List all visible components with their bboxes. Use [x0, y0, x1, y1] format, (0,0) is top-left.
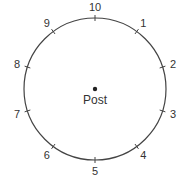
tick-mark	[135, 144, 139, 149]
position-label: 6	[44, 149, 50, 161]
post-dot	[93, 87, 97, 91]
position-label: 1	[140, 17, 146, 29]
position-label: 5	[92, 165, 98, 177]
tick-mark	[52, 29, 56, 34]
tick-mark	[52, 144, 56, 149]
position-label: 8	[14, 58, 20, 70]
position-label: 9	[44, 17, 50, 29]
position-label: 10	[89, 1, 101, 13]
tick-mark	[135, 29, 139, 34]
position-label: 4	[140, 149, 146, 161]
position-label: 3	[170, 108, 176, 120]
post-label: Post	[83, 93, 108, 107]
position-label: 2	[170, 58, 176, 70]
position-label: 7	[14, 108, 20, 120]
circle-diagram: 10123456789 Post	[0, 0, 185, 186]
